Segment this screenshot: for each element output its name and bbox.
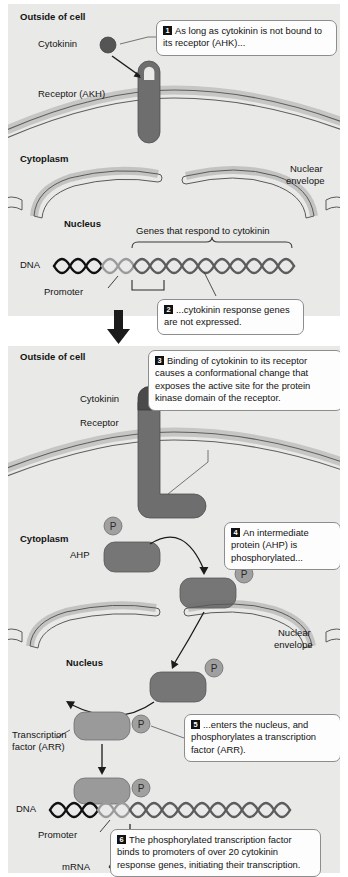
svg-text:P: P <box>138 783 145 794</box>
callout-3-number: 3 <box>155 356 164 365</box>
arr-transcription-factor <box>74 712 130 740</box>
dna-helix-2 <box>50 803 290 817</box>
panel1-nuclear-envelope-label-1: Nuclear <box>290 164 323 175</box>
callout-6-number: 6 <box>117 835 126 844</box>
panel2-tf-label-2: factor (ARR) <box>12 742 65 753</box>
callout-1-leader <box>120 37 156 44</box>
promoter-bracket <box>132 280 164 290</box>
panel2-receptor-label: Receptor <box>80 418 119 429</box>
panel2-ahp-label: AHP <box>70 550 90 561</box>
dna-helix <box>54 259 294 273</box>
panel1-nuclear-envelope-label-2: envelope <box>286 176 325 187</box>
svg-text:P: P <box>241 569 248 580</box>
panel2-cytokinin-label: Cytokinin <box>80 394 119 405</box>
ahp-in-nucleus <box>150 672 206 702</box>
svg-text:P: P <box>110 521 117 532</box>
panel2-nuclear-envelope-label-1: Nuclear <box>278 628 311 639</box>
panel1-receptor-label: Receptor (AKH) <box>38 89 105 100</box>
svg-text:P: P <box>138 719 145 730</box>
arr-to-dna-arrow <box>98 744 106 775</box>
callout-1: 1As long as cytokinin is not bound to it… <box>156 20 337 56</box>
svg-text:P: P <box>211 663 218 674</box>
promoter-leader-2 <box>100 820 110 832</box>
callout-4-number: 4 <box>231 528 240 537</box>
cytokinin-molecule <box>100 37 116 53</box>
panel2-mrna-label: mRNA <box>62 862 90 873</box>
callout-1-text: As long as cytokinin is not bound to its… <box>163 25 322 48</box>
panel2-tf-label-1: Transcription <box>12 730 67 741</box>
callout-3-leader <box>168 450 208 494</box>
callout-3-text: Binding of cytokinin to its receptor cau… <box>155 355 310 403</box>
panel2-nucleus-label: Nucleus <box>66 658 103 669</box>
callout-4-text: An intermediate protein (AHP) is phospho… <box>231 527 309 563</box>
panel1-dna-label: DNA <box>20 260 40 271</box>
binding-arrow <box>112 56 141 78</box>
phosphate-on-nuclear-ahp: P <box>205 659 223 677</box>
panel-inactive-state: Outside of cell Cytokinin Receptor (AKH)… <box>8 4 340 316</box>
panel1-outside-label: Outside of cell <box>20 12 85 23</box>
callout-2-text: ...cytokinin response genes are not expr… <box>164 304 290 327</box>
panel-active-state: P P <box>8 346 340 873</box>
plasma-membrane-2 <box>8 432 340 478</box>
nuclear-import-arrow <box>171 612 204 669</box>
panel1-genes-bracket-label: Genes that respond to cytokinin <box>136 226 270 237</box>
panel2-nuclear-envelope-label-2: envelope <box>274 640 313 651</box>
callout-4: 4An intermediate protein (AHP) is phosph… <box>224 522 340 570</box>
panel2-promoter-label: Promoter <box>38 830 77 841</box>
phosphate-on-arr: P <box>132 715 150 733</box>
callout-6-text: The phosphorylated transcription factor … <box>117 834 300 870</box>
callout-2-leader <box>204 272 216 296</box>
panel1-nucleus-label: Nucleus <box>64 219 101 230</box>
panel2-cytoplasm-label: Cytoplasm <box>20 534 69 545</box>
callout-3: 3Binding of cytokinin to its receptor ca… <box>148 350 340 411</box>
panel-transition-arrow <box>102 310 138 346</box>
receptor-akh-shape <box>138 61 160 143</box>
panel-2-graphics: P P <box>8 346 340 873</box>
phosphate-on-bound-arr: P <box>132 779 150 797</box>
panel1-promoter-label: Promoter <box>44 287 83 298</box>
panel1-cytoplasm-label: Cytoplasm <box>20 154 69 165</box>
callout-1-number: 1 <box>163 26 172 35</box>
callout-5-text: ...enters the nucleus, and phosphorylate… <box>191 719 316 755</box>
ahp-protein <box>104 542 160 572</box>
callout-5-leader <box>151 726 184 738</box>
callout-5-number: 5 <box>191 720 200 729</box>
panel2-outside-label: Outside of cell <box>20 352 85 363</box>
gene-bracket <box>132 237 292 248</box>
callout-2: 2...cytokinin response genes are not exp… <box>157 299 304 335</box>
phosphate-on-receptor: P <box>104 517 122 535</box>
callout-2-number: 2 <box>164 305 173 314</box>
promoter-leader <box>108 276 118 288</box>
arr-bound-to-promoter <box>74 778 130 804</box>
panel2-dna-label: DNA <box>16 804 36 815</box>
panel1-cytokinin-label: Cytokinin <box>38 39 77 50</box>
callout-6: 6The phosphorylated transcription factor… <box>110 829 321 877</box>
callout-5: 5...enters the nucleus, and phosphorylat… <box>184 714 340 762</box>
